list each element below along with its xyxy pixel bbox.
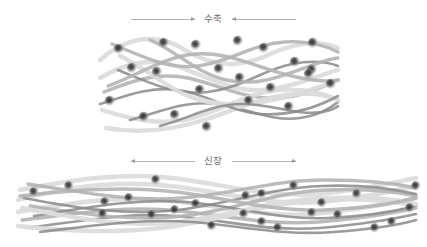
arrow-right-icon bbox=[131, 15, 195, 24]
crosslink-node bbox=[411, 181, 421, 191]
fiber-network-stretched bbox=[0, 170, 427, 247]
crosslink-node bbox=[370, 223, 380, 233]
crosslink-node bbox=[29, 187, 39, 197]
crosslink-node bbox=[289, 181, 299, 191]
crosslink-node bbox=[191, 40, 202, 51]
crosslink-node bbox=[257, 189, 267, 199]
arrow-right-icon bbox=[232, 157, 296, 166]
crosslink-node bbox=[233, 36, 244, 47]
crosslink-node bbox=[170, 110, 181, 121]
crosslink-node bbox=[151, 175, 161, 185]
crosslink-node bbox=[207, 221, 217, 231]
figure-canvas: 수축 bbox=[0, 0, 427, 247]
crosslink-node bbox=[214, 64, 225, 75]
crosslink-node bbox=[304, 69, 315, 80]
crosslink-node bbox=[257, 217, 267, 227]
crosslink-node bbox=[195, 85, 206, 96]
crosslink-node bbox=[124, 193, 134, 203]
stretch-arrow-row: 신장 bbox=[0, 153, 427, 169]
contraction-arrow-row: 수축 bbox=[0, 11, 427, 27]
crosslink-node bbox=[259, 43, 270, 54]
crosslink-node bbox=[326, 79, 337, 90]
crosslink-node bbox=[241, 191, 251, 201]
crosslink-node bbox=[98, 209, 108, 219]
crosslink-node bbox=[308, 38, 319, 49]
crosslink-node bbox=[127, 63, 138, 74]
fiber-network-contracted bbox=[0, 26, 427, 140]
stretch-label: 신장 bbox=[195, 156, 232, 166]
crosslink-node bbox=[273, 223, 283, 233]
crosslink-node bbox=[405, 203, 415, 213]
contraction-label: 수축 bbox=[195, 14, 232, 24]
crosslink-node bbox=[266, 83, 277, 94]
crosslink-node bbox=[170, 205, 180, 215]
crosslink-node bbox=[235, 73, 246, 84]
crosslink-node bbox=[64, 181, 74, 191]
crosslink-node bbox=[239, 209, 249, 219]
fiber-strand-group-contracted bbox=[100, 39, 338, 131]
crosslink-node bbox=[290, 57, 301, 68]
crosslink-node bbox=[202, 122, 213, 133]
arrow-left-icon bbox=[232, 15, 296, 24]
crosslink-node bbox=[284, 102, 295, 113]
crosslink-node bbox=[105, 96, 116, 107]
crosslink-node bbox=[191, 199, 201, 209]
crosslink-node bbox=[244, 96, 255, 107]
crosslink-node bbox=[139, 112, 150, 123]
panel-stretched: 신장 bbox=[0, 140, 427, 247]
crosslink-node bbox=[387, 217, 397, 227]
crosslink-node bbox=[333, 210, 343, 220]
crosslink-node bbox=[307, 208, 317, 218]
crosslink-node bbox=[114, 44, 125, 55]
crosslink-node bbox=[100, 197, 110, 207]
crosslink-node bbox=[147, 210, 157, 220]
crosslink-node bbox=[317, 198, 327, 208]
arrow-left-icon bbox=[131, 157, 195, 166]
panel-contracted: 수축 bbox=[0, 0, 427, 140]
fiber-strand-group-stretched bbox=[18, 176, 416, 233]
crosslink-node bbox=[352, 189, 362, 199]
crosslink-node bbox=[159, 38, 170, 49]
crosslink-node bbox=[152, 67, 163, 78]
